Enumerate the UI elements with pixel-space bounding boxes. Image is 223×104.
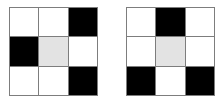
right-grid-cell-r1c2 xyxy=(156,8,184,36)
right-grid-cell-r3c2 xyxy=(156,67,184,95)
left-grid-cell-r3c3 xyxy=(69,67,97,95)
right-grid xyxy=(126,7,215,96)
right-grid-cell-r1c3 xyxy=(186,8,214,36)
right-grid-cell-r2c2 xyxy=(156,37,184,65)
left-grid-cell-r3c1 xyxy=(10,67,38,95)
left-grid-cell-r2c3 xyxy=(69,37,97,65)
left-grid-cell-r2c1 xyxy=(10,37,38,65)
left-grid-cell-r2c2 xyxy=(39,37,67,65)
left-grid-cell-r1c1 xyxy=(10,8,38,36)
right-grid-cell-r2c1 xyxy=(127,37,155,65)
right-grid-cell-r2c3 xyxy=(186,37,214,65)
left-grid-cell-r3c2 xyxy=(39,67,67,95)
left-grid xyxy=(9,7,98,96)
left-grid-cell-r1c3 xyxy=(69,8,97,36)
right-grid-cell-r1c1 xyxy=(127,8,155,36)
right-grid-cell-r3c1 xyxy=(127,67,155,95)
figure-canvas xyxy=(0,0,223,104)
right-grid-cell-r3c3 xyxy=(186,67,214,95)
left-grid-cell-r1c2 xyxy=(39,8,67,36)
